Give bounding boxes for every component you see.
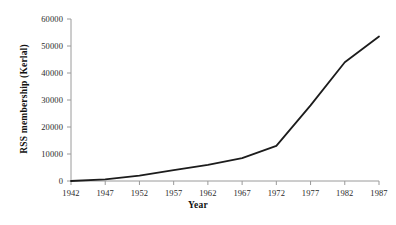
- data-series-line: [71, 37, 379, 181]
- y-axis-tick-label: 0: [24, 176, 63, 186]
- y-axis-tick-label: 40000: [24, 68, 63, 78]
- y-axis-ticks: [67, 19, 71, 181]
- y-axis-tick-label: 30000: [24, 95, 63, 105]
- axis-lines: [71, 19, 379, 181]
- y-axis-title: RSS membership (Kerlal): [19, 19, 29, 179]
- x-axis-title: Year: [0, 200, 396, 210]
- x-axis-tick-label: 1947: [97, 188, 114, 198]
- x-axis-tick-label: 1972: [268, 188, 285, 198]
- x-axis-tick-label: 1957: [165, 188, 182, 198]
- x-axis-ticks: [71, 181, 379, 185]
- x-axis-tick-label: 1942: [62, 188, 79, 198]
- x-axis-tick-label: 1962: [199, 188, 216, 198]
- y-axis-tick-label: 60000: [24, 14, 63, 24]
- x-axis-tick-label: 1977: [302, 188, 319, 198]
- x-axis-tick-label: 1967: [233, 188, 250, 198]
- x-axis-tick-label: 1987: [370, 188, 387, 198]
- line-chart: 0100002000030000400005000060000 19421947…: [0, 0, 396, 225]
- x-axis-tick-label: 1982: [336, 188, 353, 198]
- x-axis-tick-label: 1952: [131, 188, 148, 198]
- y-axis-tick-label: 50000: [24, 41, 63, 51]
- y-axis-tick-label: 20000: [24, 122, 63, 132]
- y-axis-tick-label: 10000: [24, 149, 63, 159]
